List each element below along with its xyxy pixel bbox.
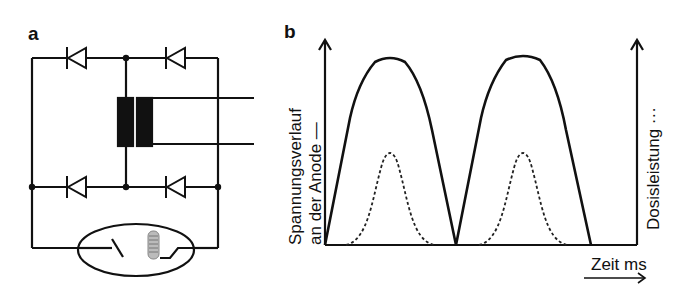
diode-top-left [67, 47, 86, 69]
diode-bottom-right [166, 176, 185, 198]
filament-coil-icon [148, 231, 159, 259]
panel-a-label: a [28, 23, 39, 44]
transformer-secondary [137, 98, 152, 146]
anode [112, 239, 123, 257]
svg-text:an der Anode —: an der Anode — [306, 122, 325, 245]
diode-bottom-left [67, 176, 86, 198]
diode-top-right [166, 47, 185, 69]
figure: a [0, 0, 678, 301]
cathode-lead [160, 248, 192, 258]
xray-tube [78, 224, 194, 276]
y-axis-left-label: Spannungsverlauf an der Anode — [286, 108, 325, 245]
dose-rate-curve [346, 153, 567, 245]
x-axis-label: Zeit ms [591, 255, 647, 274]
svg-text:Dosisleistung ···: Dosisleistung ··· [644, 107, 663, 230]
voltage-curve [325, 56, 591, 245]
y-axis-right-label: Dosisleistung ··· [644, 107, 663, 230]
transformer-primary [118, 98, 133, 146]
circuit-diagram [32, 58, 254, 248]
svg-text:Spannungsverlauf: Spannungsverlauf [286, 108, 305, 245]
panel-b-label: b [284, 21, 296, 42]
time-arrow-icon [584, 273, 645, 283]
